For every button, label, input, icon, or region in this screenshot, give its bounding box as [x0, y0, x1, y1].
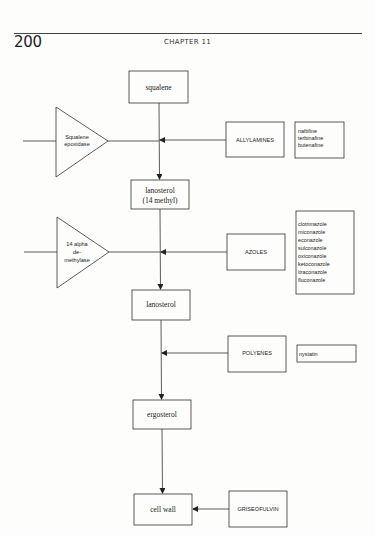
book-page: 200 CHAPTER 11: [0, 0, 375, 536]
drug-butenafine: butenafine: [298, 142, 323, 148]
node-label-lanosterol14-line1: lanosterol: [145, 186, 175, 195]
pathway-arrow-squalene-lanosterol14: [159, 103, 160, 179]
node-label-ergosterol: ergosterol: [147, 410, 177, 419]
enzyme-label-squalene-epoxidase-line2: epoxidase: [64, 141, 90, 147]
drug-ketoconazole: ketoconazole: [298, 261, 330, 267]
drug-oxiconazole: oxiconazole: [298, 253, 326, 259]
drug-class-label-polyenes: POLYENES: [242, 350, 272, 356]
node-label-lanosterol: lanosterol: [146, 300, 176, 309]
drug-miconazole: miconazole: [298, 229, 325, 235]
drug-sulconazole: sulconazole: [298, 245, 326, 251]
node-label-lanosterol14-line2: (14 methyl): [142, 196, 178, 205]
drug-itraconazole: itraconazole: [298, 269, 327, 275]
drug-class-label-azoles: AZOLES: [245, 249, 267, 255]
drug-nystatin: nystatin: [299, 351, 318, 357]
antifungal-pathway-diagram: squalene lanosterol (14 methyl) lanoster…: [0, 0, 375, 536]
enzyme-label-demethylase-line2: de-: [73, 249, 81, 255]
drug-naftifine: naftifine: [298, 128, 317, 134]
enzyme-label-demethylase-line1: 14 alpha: [66, 241, 88, 247]
node-label-squalene: squalene: [145, 83, 172, 92]
node-label-cellwall: cell wall: [150, 505, 176, 514]
pathway-arrow-lanosterol-ergosterol: [161, 320, 162, 399]
enzyme-triangle-demethylase: [57, 217, 109, 288]
drug-terbinafine: terbinafine: [298, 135, 323, 141]
drug-econazole: econazole: [298, 237, 323, 243]
drug-clotrimazole: clotrimazole: [298, 221, 327, 227]
drug-class-label-allylamines: ALLYLAMINES: [236, 137, 274, 143]
enzyme-label-demethylase-line3: methylase: [64, 257, 90, 263]
drug-fluconazole: fluconazole: [298, 277, 325, 283]
pathway-arrow-lanosterol14-lanosterol: [160, 209, 161, 289]
drug-class-label-griseofulvin: GRISEOFULVIN: [237, 506, 278, 512]
enzyme-label-squalene-epoxidase-line1: Squalene: [65, 134, 89, 140]
pathway-arrow-ergosterol-cellwall: [162, 429, 163, 493]
